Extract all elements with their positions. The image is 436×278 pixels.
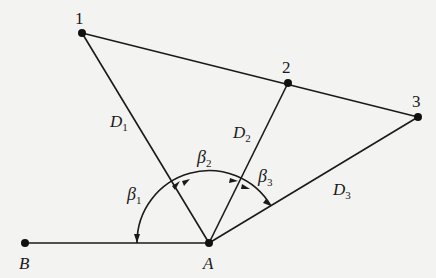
- label-point-2: 2: [282, 58, 291, 77]
- point-1: [78, 29, 86, 37]
- label-D1: D1: [109, 112, 128, 133]
- label-point-B: B: [19, 254, 30, 273]
- label-D3: D3: [332, 180, 351, 201]
- label-point-A: A: [202, 254, 214, 273]
- label-point-3: 3: [412, 92, 421, 111]
- label-D2: D2: [232, 123, 251, 144]
- point-A: [205, 239, 213, 247]
- diagram-canvas: 1 2 3 A B D1 D2 D3 β1 β2 β3: [0, 0, 436, 278]
- point-2: [284, 79, 292, 87]
- point-B: [21, 239, 29, 247]
- line-1-2-3: [82, 33, 418, 117]
- label-beta3: β3: [257, 166, 273, 188]
- label-beta2: β2: [196, 147, 211, 169]
- label-beta1: β1: [126, 184, 141, 206]
- angle-arc: [137, 171, 271, 243]
- geometry-diagram: 1 2 3 A B D1 D2 D3 β1 β2 β3: [0, 0, 436, 278]
- line-A-1: [82, 33, 209, 243]
- point-3: [414, 113, 422, 121]
- label-point-1: 1: [75, 9, 84, 28]
